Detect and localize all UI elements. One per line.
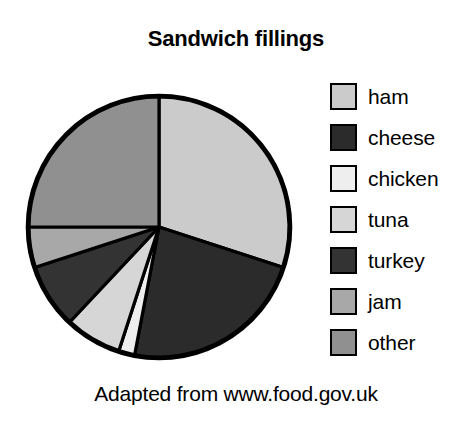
legend-swatch-turkey (330, 247, 357, 274)
legend-swatch-other (330, 329, 357, 356)
pie-slice-other[interactable] (29, 97, 159, 227)
legend-item-tuna[interactable]: tuna (330, 199, 472, 240)
legend-label-chicken: chicken (368, 168, 439, 189)
legend-item-other[interactable]: other (330, 322, 472, 363)
legend-swatch-ham (330, 83, 357, 110)
legend-label-cheese: cheese (368, 127, 435, 148)
legend-item-ham[interactable]: ham (330, 76, 472, 117)
legend-label-tuna: tuna (368, 209, 408, 230)
pie-chart-figure: Sandwich fillings ham cheese chicken tun… (0, 0, 472, 431)
legend-swatch-tuna (330, 206, 357, 233)
legend: ham cheese chicken tuna turkey jam other (330, 76, 472, 363)
legend-label-jam: jam (368, 291, 402, 312)
legend-label-other: other (368, 332, 415, 353)
legend-item-turkey[interactable]: turkey (330, 240, 472, 281)
pie-svg (20, 85, 310, 370)
legend-swatch-cheese (330, 124, 357, 151)
pie-slices (29, 97, 289, 357)
chart-title: Sandwich fillings (0, 26, 472, 52)
legend-swatch-jam (330, 288, 357, 315)
legend-swatch-chicken (330, 165, 357, 192)
legend-label-ham: ham (368, 86, 409, 107)
legend-item-jam[interactable]: jam (330, 281, 472, 322)
source-caption: Adapted from www.food.gov.uk (0, 382, 472, 406)
legend-label-turkey: turkey (368, 250, 425, 271)
legend-item-cheese[interactable]: cheese (330, 117, 472, 158)
legend-item-chicken[interactable]: chicken (330, 158, 472, 199)
pie-chart-plot (20, 85, 310, 370)
